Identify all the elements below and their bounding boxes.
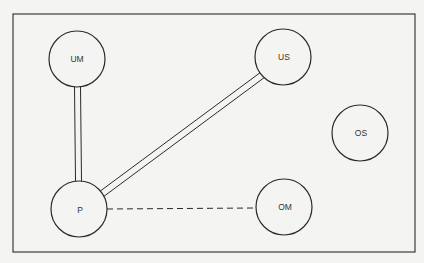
relationship-diagram: UM US OS P OM [0, 0, 424, 263]
node-label: OS [355, 128, 368, 138]
node-p: P [51, 181, 107, 237]
node-om: OM [256, 179, 312, 235]
edge-p-us [99, 72, 265, 197]
node-um: UM [49, 31, 105, 87]
node-label: UM [70, 54, 83, 64]
node-os: OS [332, 105, 388, 161]
node-label: OM [278, 202, 292, 212]
node-label: P [77, 205, 83, 215]
edge-p-om [107, 208, 256, 209]
node-us: US [255, 29, 311, 85]
node-label: US [278, 52, 290, 62]
edge-um-p [75, 87, 82, 181]
